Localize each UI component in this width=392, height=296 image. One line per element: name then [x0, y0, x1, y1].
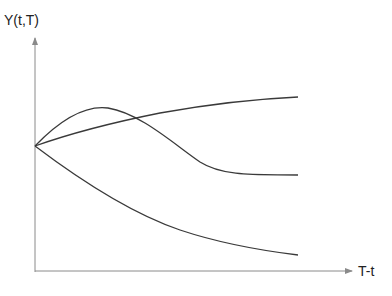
increasing-curve	[35, 97, 298, 146]
yield-curve-chart	[0, 0, 392, 296]
x-axis-label: T-t	[358, 263, 374, 279]
y-axis-label: Y(t,T)	[4, 12, 39, 28]
humped-curve	[35, 108, 298, 175]
decreasing-curve	[35, 146, 298, 255]
